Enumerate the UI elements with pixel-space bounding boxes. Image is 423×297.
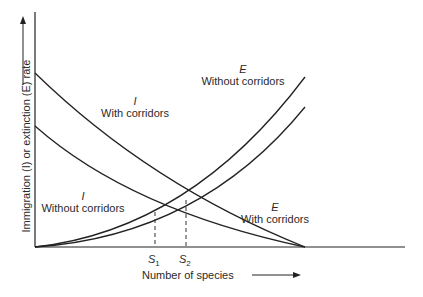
- x-axis-label: Number of species: [142, 269, 234, 281]
- label-e-without-corridors: E Without corridors: [193, 63, 293, 87]
- s2-label: S2: [179, 253, 191, 270]
- y-label-arrowhead-icon: [20, 16, 26, 24]
- label-i-with-corridors: I With corridors: [90, 95, 180, 119]
- x-label-arrowhead-icon: [293, 272, 301, 278]
- curve-e-with-corridors: [35, 107, 305, 247]
- chart-canvas: [0, 0, 423, 297]
- s1-label: S1: [148, 253, 160, 270]
- y-axis-label: Immigration (I) or extinction (E) rate: [20, 56, 32, 236]
- label-e-with-corridors: E With corridors: [230, 201, 320, 225]
- chart-figure: Immigration (I) or extinction (E) rate I…: [0, 0, 423, 297]
- curve-i-without-corridors: [35, 126, 305, 247]
- label-i-without-corridors: I Without corridors: [38, 190, 128, 214]
